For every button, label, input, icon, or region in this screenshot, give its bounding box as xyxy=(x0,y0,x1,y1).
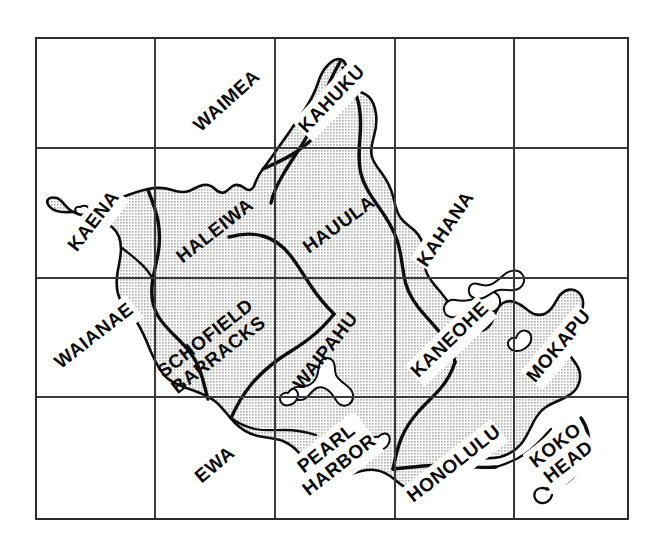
label-text-waianae: WAIANAE xyxy=(50,298,137,372)
map-label-waianae: WAIANAE xyxy=(46,295,143,380)
map-label-kahana: KAHANA xyxy=(410,185,483,275)
map-container: WAIMEAKAHUKUKAENAHALEIWAHAUULAKAHANAWAIA… xyxy=(0,0,664,553)
map-label-ewa: EWA xyxy=(187,438,245,493)
label-text-waimea: WAIMEA xyxy=(189,65,264,135)
oahu-index-map: WAIMEAKAHUKUKAENAHALEIWAHAUULAKAHANAWAIA… xyxy=(0,0,664,553)
map-label-koko-head: KOKOHEAD xyxy=(523,416,604,495)
map-label-waimea: WAIMEA xyxy=(185,62,270,143)
